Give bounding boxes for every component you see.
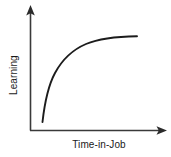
learning-curve-chart: Learning Time-in-Job (0, 0, 171, 157)
chart-canvas: Learning Time-in-Job (0, 0, 171, 157)
x-axis-label: Time-in-Job (72, 139, 126, 150)
chart-background (0, 0, 171, 157)
y-axis-label: Learning (8, 55, 19, 95)
